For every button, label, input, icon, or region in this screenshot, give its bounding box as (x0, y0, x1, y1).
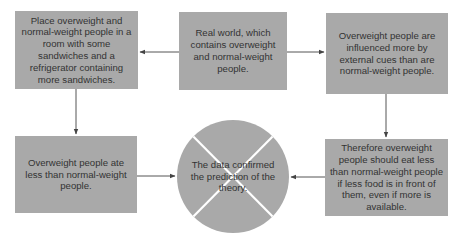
node-theory-text: Overweight people are influenced more by… (332, 30, 442, 77)
node-theory: Overweight people are influenced more by… (326, 13, 448, 94)
node-real-world-text: Real world, which contains overweight an… (187, 27, 279, 74)
node-prediction-text: Therefore overweight people should eat l… (329, 142, 444, 213)
node-conclusion-text: The data confirmed the prediction of the… (187, 159, 279, 194)
node-real-world: Real world, which contains overweight an… (179, 12, 287, 90)
node-prediction: Therefore overweight people should eat l… (325, 139, 448, 216)
node-conclusion: The data confirmed the prediction of the… (177, 120, 289, 233)
node-observation-text: Overweight people ate less than normal-w… (21, 157, 131, 192)
node-procedure: Place overweight and normal-weight peopl… (15, 11, 138, 89)
node-observation: Overweight people ate less than normal-w… (15, 136, 137, 213)
node-procedure-text: Place overweight and normal-weight peopl… (21, 15, 132, 86)
